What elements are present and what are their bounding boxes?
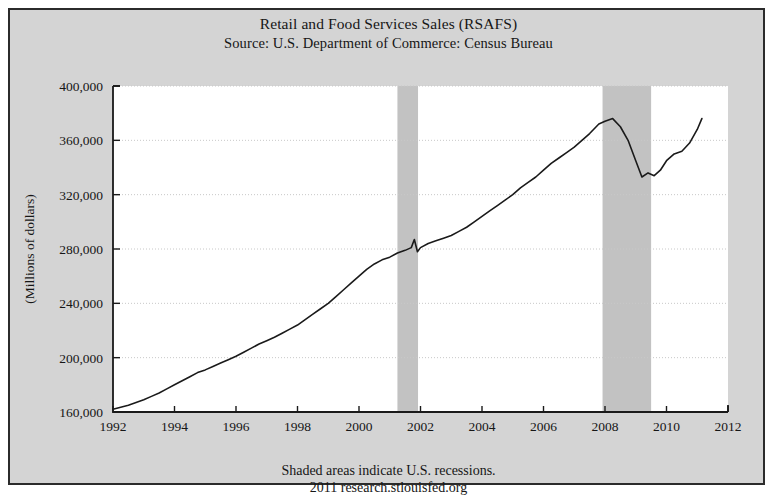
x-tick-label-4: 2000 [346,419,373,434]
line-chart-svg: 1992199419961998200020022004200620082010… [0,0,777,504]
y-axis-title-group: (Millions of dollars) [22,194,37,304]
plot-area-container: 1992199419961998200020022004200620082010… [0,0,777,504]
x-tick-label-6: 2004 [469,419,496,434]
y-tick-label-3: 280,000 [59,242,103,257]
y-tick-label-0: 160,000 [59,405,103,420]
recession-note: Shaded areas indicate U.S. recessions. [0,462,777,479]
y-tick-label-2: 240,000 [59,296,103,311]
y-axis-ticks-group: 160,000200,000240,000280,000320,000360,0… [59,79,120,420]
attribution-note: 2011 research.stlouisfed.org [0,479,777,496]
x-tick-label-2: 1996 [223,419,250,434]
chart-footer: Shaded areas indicate U.S. recessions. 2… [0,462,777,496]
y-tick-label-5: 360,000 [59,133,103,148]
x-tick-label-5: 2002 [407,419,434,434]
x-tick-label-7: 2006 [530,419,557,434]
x-tick-label-1: 1994 [161,419,188,434]
x-tick-label-10: 2012 [715,419,742,434]
y-tick-label-6: 400,000 [59,79,103,94]
x-tick-label-3: 1998 [284,419,311,434]
y-axis-title: (Millions of dollars) [22,194,37,304]
x-tick-label-0: 1992 [100,419,127,434]
x-tick-label-8: 2008 [592,419,619,434]
chart-figure: Retail and Food Services Sales (RSAFS) S… [0,0,777,504]
y-tick-label-1: 200,000 [59,351,103,366]
y-tick-label-4: 320,000 [59,188,103,203]
x-tick-label-9: 2010 [653,419,680,434]
